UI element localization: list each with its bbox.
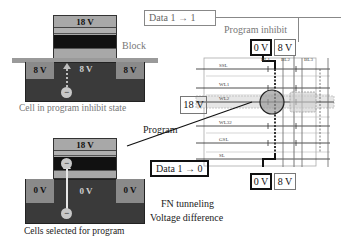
- wordline-label-wl1: WL1: [219, 82, 229, 87]
- source-diffusion: 8 V: [26, 62, 54, 79]
- source-voltage-label: 0 V: [26, 179, 54, 201]
- program-cell-caption: Cells selected for program: [24, 226, 125, 236]
- drain-voltage-label: 8 V: [116, 62, 144, 78]
- program-inhibit-title: Program inhibit: [224, 24, 287, 35]
- gate-stack: 18 V: [53, 15, 117, 60]
- bitline-label-bl1: BL1: [261, 57, 270, 62]
- inter-poly-dielectric: [54, 151, 116, 156]
- source-voltage-label: 8 V: [26, 62, 54, 78]
- program-pointer-line: [125, 100, 255, 150]
- tunnel-oxide: [54, 170, 116, 178]
- fn-tunneling-label: FN tunneling: [161, 198, 214, 209]
- block-label: Block: [122, 40, 146, 51]
- gate-voltage-label: 18 V: [54, 16, 116, 28]
- drain-diffusion: 0 V: [116, 179, 144, 203]
- channel-voltage-label: 0 V: [72, 186, 100, 196]
- program-inhibit-frame: [216, 17, 341, 18]
- electron-icon: −: [61, 87, 72, 98]
- dotted-arrow: [66, 69, 68, 87]
- control-gate: 18 V: [54, 139, 116, 151]
- wordline-label-sl: SL: [219, 153, 225, 158]
- inter-poly-dielectric: [54, 28, 116, 34]
- electron-icon: −: [61, 208, 72, 219]
- wordline-label-ssl: SSL: [219, 63, 228, 68]
- channel-voltage-label: 8 V: [72, 64, 100, 74]
- bitline-label-bl3: BL3: [304, 57, 313, 62]
- control-gate: 18 V: [54, 16, 116, 28]
- bl1-bottom-voltage: 0 V: [250, 173, 272, 190]
- program-inhibit-frame-side: [298, 17, 299, 42]
- drain-diffusion: 8 V: [116, 62, 144, 79]
- voltage-difference-label: Voltage difference: [150, 212, 223, 223]
- bl1-top-voltage: 0 V: [250, 39, 272, 56]
- drain-voltage-label: 0 V: [116, 179, 144, 201]
- bl2-bottom-voltage: 8 V: [274, 173, 296, 190]
- inhibit-cell-caption: Cell in program inhibit state: [19, 103, 126, 113]
- floating-gate: [54, 35, 116, 48]
- electron-icon: −: [61, 158, 72, 169]
- source-diffusion: 0 V: [26, 179, 54, 203]
- tunneling-arrow: [66, 168, 68, 210]
- arrow-head-icon: [63, 63, 71, 69]
- gate-voltage-label: 18 V: [54, 139, 116, 151]
- inhibit-data-box: Data 1 → 1: [144, 10, 216, 26]
- bitline-label-bl2: BL2: [281, 57, 290, 62]
- bl2-top-voltage: 8 V: [274, 39, 296, 56]
- program-data-box: Data 1 → 0: [150, 160, 209, 177]
